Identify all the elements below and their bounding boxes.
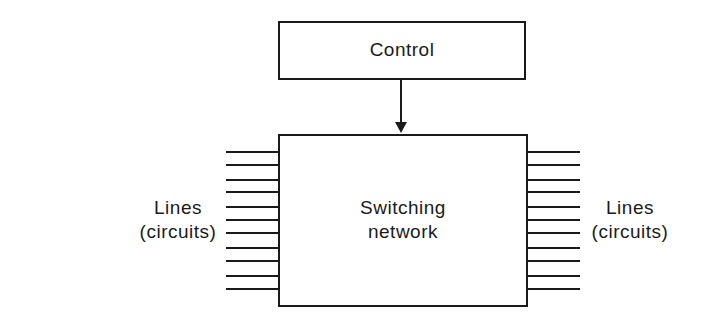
right-lines-label-line2: (circuits) (579, 220, 681, 244)
switching-network-label: Switching network (279, 196, 527, 244)
switching-label-line2: network (279, 220, 527, 244)
control-label: Control (279, 38, 525, 62)
left-circuit-lines (226, 152, 279, 289)
arrow-head-icon (395, 122, 407, 133)
right-lines-label-line1: Lines (579, 196, 681, 220)
right-circuit-lines (527, 152, 580, 289)
right-lines-label: Lines (circuits) (579, 196, 681, 244)
left-lines-label: Lines (circuits) (128, 196, 228, 244)
left-lines-label-line2: (circuits) (128, 220, 228, 244)
left-lines-label-line1: Lines (128, 196, 228, 220)
switching-label-line1: Switching (279, 196, 527, 220)
